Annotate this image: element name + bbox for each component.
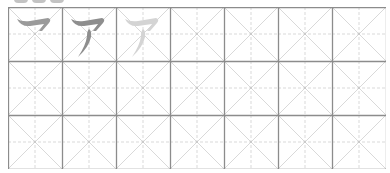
center-dot	[34, 87, 36, 89]
practice-cell[interactable]	[8, 115, 62, 169]
practice-cell[interactable]	[332, 115, 386, 169]
center-dot	[304, 33, 306, 35]
center-dot	[88, 87, 90, 89]
practice-cell[interactable]	[62, 115, 116, 169]
practice-cell[interactable]	[170, 115, 224, 169]
stroke-indicator-3	[50, 0, 64, 3]
practice-cell[interactable]	[224, 115, 278, 169]
center-dot	[304, 87, 306, 89]
practice-cell[interactable]	[224, 7, 278, 61]
practice-grid-lines	[8, 7, 386, 169]
center-dot	[250, 33, 252, 35]
stroke-1-path	[125, 18, 158, 31]
practice-cell[interactable]	[332, 7, 386, 61]
stroke-indicator-2	[32, 0, 46, 3]
practice-cell[interactable]	[8, 61, 62, 115]
stroke-demo-complete	[71, 18, 104, 57]
stroke-indicator-1	[14, 0, 28, 3]
center-dot	[250, 141, 252, 143]
practice-cell[interactable]	[224, 61, 278, 115]
center-dot	[358, 141, 360, 143]
center-dot	[196, 33, 198, 35]
stroke-demo-stroke-1	[17, 18, 50, 31]
stroke-demo-trace	[125, 18, 158, 57]
practice-cell[interactable]	[170, 61, 224, 115]
practice-cell[interactable]	[332, 61, 386, 115]
center-dot	[196, 141, 198, 143]
practice-cell[interactable]	[62, 61, 116, 115]
practice-grid	[8, 7, 386, 169]
practice-cell[interactable]	[278, 115, 332, 169]
center-dot	[34, 141, 36, 143]
center-dot	[142, 87, 144, 89]
practice-cell[interactable]	[278, 61, 332, 115]
center-dot	[88, 141, 90, 143]
stroke-order-indicators	[14, 0, 64, 3]
practice-cell[interactable]	[170, 7, 224, 61]
stroke-1-path	[71, 18, 104, 31]
center-dot	[358, 33, 360, 35]
center-dot	[250, 87, 252, 89]
stroke-1-path	[17, 18, 50, 31]
center-dot	[34, 33, 36, 35]
center-dot	[358, 87, 360, 89]
center-dot	[196, 87, 198, 89]
practice-cell[interactable]	[116, 61, 170, 115]
practice-cell[interactable]	[8, 7, 62, 61]
practice-cell[interactable]	[278, 7, 332, 61]
center-dot	[304, 141, 306, 143]
practice-cell[interactable]	[116, 115, 170, 169]
center-dot	[142, 141, 144, 143]
